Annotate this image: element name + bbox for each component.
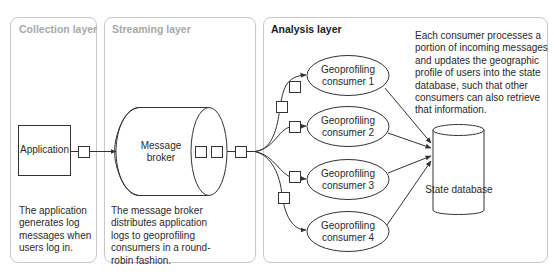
consumer-label-line: Geoprofiling bbox=[307, 168, 389, 180]
application-label: Application bbox=[18, 144, 71, 156]
description-line: users log in. bbox=[19, 242, 95, 254]
streaming-layer-description: The message broker distributes applicati… bbox=[111, 205, 251, 267]
message-square-icon bbox=[236, 147, 247, 158]
consumer-4-label: Geoprofiling consumer 4 bbox=[307, 220, 389, 244]
description-line: logs to geoprofiling bbox=[111, 230, 251, 242]
message-square-icon bbox=[279, 193, 290, 204]
message-square-icon bbox=[290, 122, 301, 133]
description-line: consumers can also retrieve bbox=[415, 92, 554, 104]
queued-message-icon bbox=[196, 147, 207, 158]
description-line: messages when bbox=[19, 230, 95, 242]
description-line: generates log bbox=[19, 217, 95, 229]
consumer-label-line: consumer 1 bbox=[307, 76, 389, 88]
description-line: profile of users into the state bbox=[415, 67, 554, 79]
description-line: portion of incoming messages bbox=[415, 42, 554, 54]
description-line: Each consumer processes a bbox=[415, 30, 554, 42]
consumer-3-label: Geoprofiling consumer 3 bbox=[307, 168, 389, 192]
state-database-label: State database bbox=[420, 184, 498, 196]
broker-label-line: Message bbox=[136, 140, 186, 152]
description-line: The application bbox=[19, 205, 95, 217]
description-line: robin fashion. bbox=[111, 255, 251, 267]
consumer-label-line: consumer 4 bbox=[307, 232, 389, 244]
consumer-2-label: Geoprofiling consumer 2 bbox=[307, 115, 389, 139]
broker-label: Message broker bbox=[136, 140, 186, 164]
consumer-1-label: Geoprofiling consumer 1 bbox=[307, 64, 389, 88]
description-line: that information. bbox=[415, 104, 554, 116]
description-line: database, such that other bbox=[415, 80, 554, 92]
consumer-label-line: Geoprofiling bbox=[307, 220, 389, 232]
message-square-icon bbox=[79, 147, 90, 158]
consumer-label-line: Geoprofiling bbox=[307, 115, 389, 127]
description-line: distributes application bbox=[111, 217, 251, 229]
message-square-icon bbox=[290, 172, 301, 183]
queued-message-icon bbox=[212, 147, 223, 158]
message-square-icon bbox=[277, 102, 288, 113]
description-line: The message broker bbox=[111, 205, 251, 217]
message-square-icon bbox=[290, 82, 301, 93]
analysis-layer-description: Each consumer processes a portion of inc… bbox=[415, 30, 554, 117]
description-line: and updates the geographic bbox=[415, 55, 554, 67]
collection-layer-description: The application generates log messages w… bbox=[19, 205, 95, 255]
consumer-label-line: Geoprofiling bbox=[307, 64, 389, 76]
state-database-cylinder bbox=[433, 130, 484, 215]
broker-label-line: broker bbox=[136, 152, 186, 164]
consumer-label-line: consumer 2 bbox=[307, 127, 389, 139]
consumer-label-line: consumer 3 bbox=[307, 180, 389, 192]
description-line: consumers in a round- bbox=[111, 242, 251, 254]
